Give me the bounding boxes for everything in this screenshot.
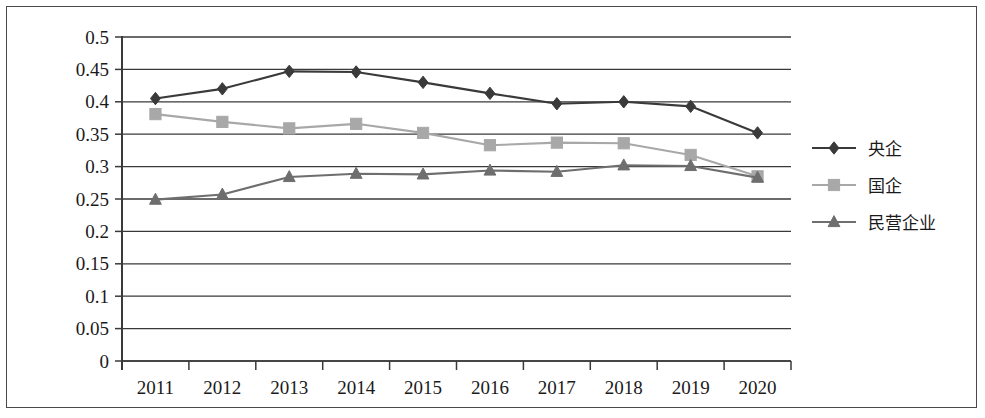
legend-item-2[interactable]: 国企 [812,177,902,196]
series-triangle [150,159,764,204]
data-point-diamond [485,87,495,99]
y-tick-label: 0.3 [85,156,109,177]
y-tick-label: 0.15 [76,253,109,274]
data-point-square [284,123,295,134]
x-tick-label: 2014 [337,377,376,398]
data-point-diamond [418,76,428,88]
series-line [155,165,757,199]
data-point-diamond [284,65,294,77]
data-point-diamond [753,127,763,139]
x-tick-label: 2016 [471,377,509,398]
series-square [150,109,763,182]
legend-item-3[interactable]: 民营企业 [812,214,936,233]
data-point-square [828,179,839,190]
data-point-diamond [351,66,361,78]
legend-label: 国企 [868,177,902,196]
y-tick-label: 0.4 [85,91,109,112]
y-tick-labels: 00.050.10.150.20.250.30.350.40.450.5 [76,27,110,372]
y-tick-label: 0 [100,351,110,372]
y-tick-label: 0.1 [85,286,109,307]
x-tick-label: 2019 [672,377,710,398]
x-tick-label: 2015 [404,377,442,398]
data-point-square [351,118,362,129]
data-point-diamond [619,96,629,108]
y-tick-label: 0.2 [85,221,109,242]
y-tick-label: 0.25 [76,189,109,210]
x-tick-label: 2011 [137,377,174,398]
legend-item-1[interactable]: 央企 [812,140,902,159]
data-point-square [551,137,562,148]
data-point-diamond [552,98,562,110]
x-tick-label: 2017 [538,377,576,398]
data-point-square [217,116,228,127]
y-tick-label: 0.5 [85,27,109,48]
legend-label: 民营企业 [868,214,936,233]
chart-legend: 央企国企民营企业 [812,140,936,233]
data-point-diamond [829,142,839,154]
x-tick-label: 2013 [270,377,308,398]
line-chart: 00.050.10.150.20.250.30.350.40.450.5 201… [0,0,985,418]
y-axis [115,36,122,370]
chart-figure: 00.050.10.150.20.250.30.350.40.450.5 201… [0,0,985,418]
data-point-square [618,138,629,149]
x-tick-label: 2018 [605,377,643,398]
y-tick-label: 0.05 [76,318,109,339]
x-axis [122,361,791,370]
data-point-diamond [150,92,160,104]
y-tick-label: 0.35 [76,124,109,145]
data-point-square [150,109,161,120]
data-point-square [417,127,428,138]
x-tick-label: 2012 [203,377,241,398]
data-point-diamond [217,83,227,95]
legend-label: 央企 [868,140,902,159]
data-point-square [484,140,495,151]
x-tick-labels: 2011201220132014201520162017201820192020 [137,377,777,398]
y-tick-label: 0.45 [76,59,109,80]
x-tick-label: 2020 [739,377,777,398]
